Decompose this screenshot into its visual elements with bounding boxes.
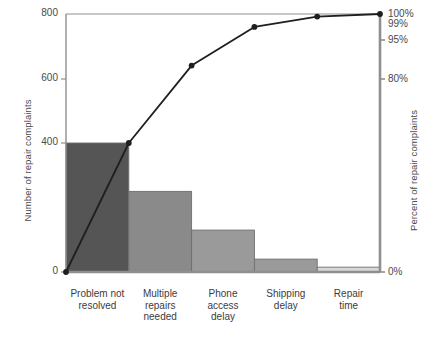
data-point-1 [126,140,132,146]
data-point-2 [189,63,195,69]
bar-2 [192,230,255,272]
bar-3 [254,259,317,272]
data-point-4 [314,14,320,20]
data-point-0 [63,269,69,275]
y-tick-label-left-3: 0 [22,265,58,276]
bars-group [66,143,380,272]
y-tick-label-right-1: 99% [388,18,428,29]
data-point-3 [252,24,258,30]
bar-1 [129,191,192,272]
y-tick-label-left-0: 800 [22,7,58,18]
y-tick-label-right-3: 80% [388,73,428,84]
y-tick-label-left-2: 400 [22,136,58,147]
pareto-chart: Number of repair complaints Percent of r… [0,0,440,339]
x-category-label-4: Repair time [309,288,388,311]
y-tick-label-right-2: 95% [388,34,428,45]
y-tick-label-left-1: 600 [22,72,58,83]
data-point-5 [377,11,383,17]
y-tick-label-right-4: 0% [388,266,428,277]
